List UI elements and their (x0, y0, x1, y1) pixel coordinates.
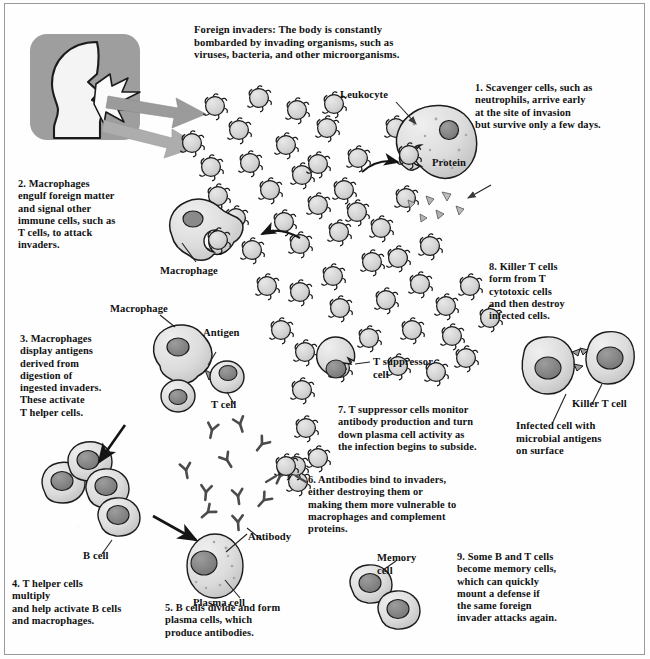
label-t-suppressor-cell: T suppressor cell (373, 356, 433, 381)
step-4-text: 4. T helper cells multiply and help acti… (12, 578, 121, 627)
step-6-text: 6. Antibodies bind to invaders, either d… (308, 474, 456, 535)
step-9-text: 9. Some B and T cells become memory cell… (457, 551, 557, 625)
antibody-cloud (180, 416, 306, 540)
b-precursor-cell (161, 380, 195, 412)
step-2-text: 2. Macrophages engulf foreign matter and… (18, 178, 115, 252)
label-leukocyte: Leukocyte (340, 89, 388, 102)
label-killer-t-cell: Killer T cell (572, 398, 627, 411)
label-antibody: Antibody (248, 531, 291, 544)
label-infected-cell: Infected cell with microbial antigens on… (516, 420, 601, 458)
infected-cell (522, 337, 583, 394)
step-3-text: 3. Macrophages display antigens derived … (20, 333, 101, 419)
label-macrophage-top: Macrophage (160, 265, 218, 278)
t-cell (210, 361, 244, 393)
step-7-text: 7. T suppressor cells monitor antibody p… (338, 404, 477, 453)
plasma-cell (187, 534, 247, 598)
step-8-text: 8. Killer T cells form from T cytotoxic … (489, 261, 565, 322)
protein-fragments (408, 185, 491, 222)
label-macrophage-mid: Macrophage (110, 303, 168, 316)
foreign-invaders-note: Foreign invaders: The body is constantly… (194, 24, 400, 62)
label-protein: Protein (432, 157, 466, 170)
label-plasma-cell: Plasma cell (193, 597, 245, 610)
step-1-text: 1. Scavenger cells, such as neutrophils,… (475, 82, 601, 131)
label-memory-cell: Memory cell (377, 552, 416, 577)
diagram-canvas: Foreign invaders: The body is constantly… (0, 0, 650, 659)
label-b-cell: B cell (83, 550, 109, 563)
head-silhouette-panel (30, 34, 140, 140)
label-t-cell: T cell (211, 399, 236, 412)
b-cell-cluster (42, 425, 196, 554)
killer-t-cell (580, 332, 634, 384)
label-antigen: Antigen (203, 327, 240, 340)
